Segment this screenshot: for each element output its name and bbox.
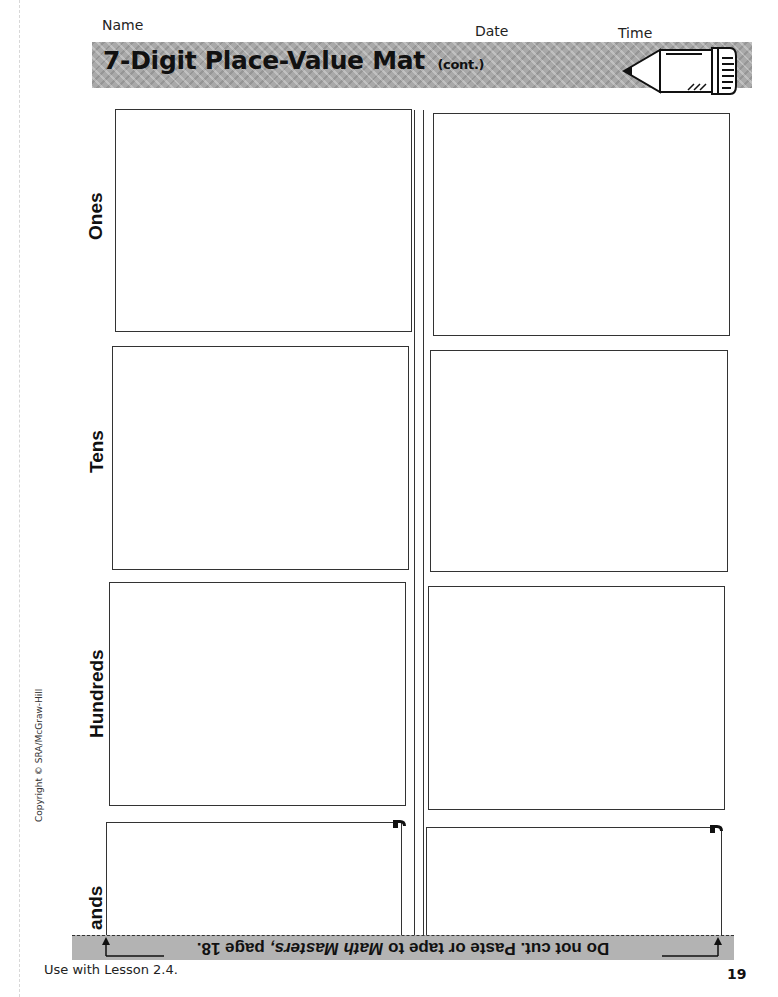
row-label-tens: Tens — [86, 430, 108, 473]
hundreds-left-box[interactable] — [109, 582, 406, 806]
center-divider-line-left — [414, 110, 415, 935]
tens-right-box[interactable] — [430, 350, 728, 572]
title-suffix: (cont.) — [437, 57, 484, 72]
hundreds-right-box[interactable] — [428, 586, 725, 810]
copyright-note: Copyright © SRA/McGraw-Hill — [34, 689, 44, 822]
date-label: Date — [475, 23, 508, 39]
instruction-suffix: page 18. — [197, 938, 265, 958]
lesson-reference: Use with Lesson 2.4. — [44, 962, 178, 977]
row-label-ones: Ones — [85, 192, 107, 240]
name-label: Name — [102, 17, 143, 33]
center-divider-line-right — [423, 110, 424, 935]
tab-hook-icon — [393, 813, 407, 823]
tab-hook-icon — [710, 818, 724, 828]
ones-right-box[interactable] — [433, 113, 730, 336]
thousands-left-box[interactable] — [106, 822, 402, 947]
tens-left-box[interactable] — [112, 346, 409, 570]
row-label-thousands: ands — [85, 886, 107, 930]
page-number: 19 — [727, 966, 746, 982]
time-label: Time — [618, 25, 652, 41]
ones-left-box[interactable] — [115, 109, 412, 332]
arrow-left-icon — [96, 936, 166, 958]
instruction-italic: Math Masters, — [270, 938, 383, 958]
row-label-hundreds: Hundreds — [86, 649, 108, 738]
thousands-right-box[interactable] — [426, 827, 722, 947]
pencil-icon — [622, 44, 740, 98]
margin-guide — [19, 0, 20, 997]
instruction-prefix: Do not cut. Paste or tape to — [388, 938, 609, 958]
page-title: 7-Digit Place-Value Mat (cont.) — [103, 46, 484, 75]
paste-instruction: Do not cut. Paste or tape to Math Master… — [72, 936, 734, 960]
arrow-right-icon — [662, 936, 726, 958]
footer-paste-bar: Do not cut. Paste or tape to Math Master… — [72, 935, 734, 960]
title-main: 7-Digit Place-Value Mat — [103, 46, 425, 75]
